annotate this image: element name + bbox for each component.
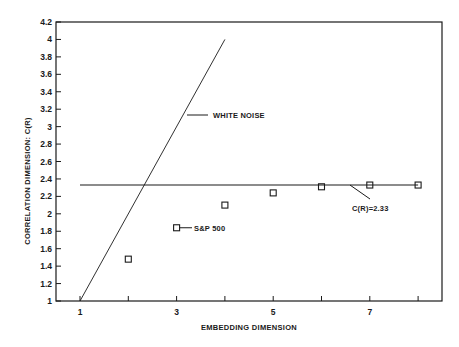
y-tick-label: 2.4 [40,174,52,184]
y-tick-label: 3.6 [40,69,52,79]
x-tick-label: 7 [367,307,372,317]
y-tick-label: 2 [47,209,52,219]
y-tick-label: 3.4 [40,87,52,97]
cr-label: C(R)=2.33 [352,204,389,213]
plot-border [56,22,442,301]
y-tick-label: 3.2 [40,104,52,114]
y-tick-label: 3 [47,122,52,132]
series-layer [80,39,421,301]
y-tick-label: 3.8 [40,52,52,62]
y-tick-label: 1 [47,296,52,306]
y-axis-label: CORRELATION DIMENSION: C(R) [23,117,32,245]
sp500-data-point [174,225,180,231]
sp500-label: S&P 500 [194,224,225,233]
y-tick-label: 2.8 [40,139,52,149]
y-tick-label: 1.6 [40,244,52,254]
y-tick-label: 4 [47,34,52,44]
correlation-dimension-chart: 11.21.41.61.822.22.42.62.833.23.43.63.84… [0,0,459,347]
white-noise-line [80,39,225,301]
x-tick-label: 3 [174,307,179,317]
y-tick-label: 1.2 [40,279,52,289]
sp500-data-point [125,256,131,262]
annotations-layer: WHITE NOISES&P 500C(R)=2.33 [180,111,389,233]
y-axis-ticks: 11.21.41.61.822.22.42.62.833.23.43.63.84… [40,17,61,306]
x-axis-label: EMBEDDING DIMENSION [201,323,297,332]
y-tick-label: 2.2 [40,191,52,201]
sp500-data-point [270,190,276,196]
x-tick-label: 1 [78,307,83,317]
y-tick-label: 1.4 [40,261,52,271]
sp500-data-point [222,202,228,208]
white-noise-label: WHITE NOISE [213,111,265,120]
plot-frame [56,22,442,301]
y-tick-label: 2.6 [40,157,52,167]
x-tick-label: 5 [271,307,276,317]
x-axis-ticks: 1357 [78,296,418,317]
y-tick-label: 1.8 [40,226,52,236]
y-tick-label: 4.2 [40,17,52,27]
